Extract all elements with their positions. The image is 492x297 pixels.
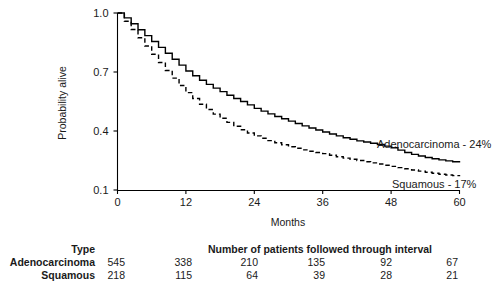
risk-table: Type Number of patients followed through… bbox=[0, 243, 492, 282]
risk-table-cell: 67 bbox=[433, 256, 458, 268]
y-axis-tick-label: 0.7 bbox=[93, 66, 108, 78]
x-axis-tick-label: 24 bbox=[248, 196, 260, 208]
risk-table-cell: 21 bbox=[433, 269, 458, 281]
annotation-adenocarcinoma: Adenocarcinoma - 24% bbox=[377, 138, 492, 150]
y-axis-ticks bbox=[114, 13, 118, 190]
risk-table-cell: 135 bbox=[300, 256, 325, 268]
risk-table-cell: 338 bbox=[167, 256, 192, 268]
y-axis-tick-labels: 0.10.40.71.0 bbox=[93, 7, 108, 196]
risk-table-cell: 39 bbox=[300, 269, 325, 281]
y-axis-tick-label: 0.1 bbox=[93, 184, 108, 196]
x-axis-tick-label: 48 bbox=[385, 196, 397, 208]
x-axis-title: Months bbox=[271, 216, 305, 228]
y-axis-title: Probability alive bbox=[56, 66, 68, 140]
risk-table-type-header: Type bbox=[71, 243, 95, 255]
risk-table-cell: 210 bbox=[233, 256, 258, 268]
risk-table-cell: 28 bbox=[367, 269, 392, 281]
risk-table-cell: 64 bbox=[233, 269, 258, 281]
risk-table-counts-header: Number of patients followed through inte… bbox=[170, 243, 470, 255]
survival-chart-figure: 0.10.40.71.0 01224364860 Probability ali… bbox=[0, 0, 492, 297]
kaplan-meier-plot: 0.10.40.71.0 01224364860 Probability ali… bbox=[0, 0, 492, 240]
risk-table-cell: 115 bbox=[167, 269, 192, 281]
y-axis-tick-label: 0.4 bbox=[93, 125, 108, 137]
y-axis-tick-label: 1.0 bbox=[93, 7, 108, 19]
risk-table-row-label: Adenocarcinoma bbox=[10, 256, 95, 268]
x-axis-tick-labels: 01224364860 bbox=[114, 196, 465, 208]
x-axis-tick-label: 0 bbox=[114, 196, 120, 208]
table-row: Adenocarcinoma 545 338 210 135 92 67 bbox=[0, 256, 492, 269]
x-axis-tick-label: 36 bbox=[317, 196, 329, 208]
x-axis-tick-label: 60 bbox=[453, 196, 465, 208]
x-axis-tick-label: 12 bbox=[180, 196, 192, 208]
risk-table-cell: 218 bbox=[100, 269, 125, 281]
risk-table-cell: 545 bbox=[100, 256, 125, 268]
risk-table-header-row: Type Number of patients followed through… bbox=[0, 243, 492, 256]
risk-table-row-label: Squamous bbox=[41, 269, 95, 281]
risk-table-cell: 92 bbox=[367, 256, 392, 268]
table-row: Squamous 218 115 64 39 28 21 bbox=[0, 269, 492, 282]
annotation-squamous: Squamous - 17% bbox=[392, 178, 477, 190]
